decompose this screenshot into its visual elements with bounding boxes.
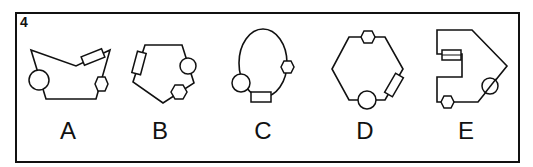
a-hexagon-icon bbox=[95, 77, 108, 91]
c-hexagon-icon bbox=[281, 61, 294, 73]
e-hexagon-icon bbox=[441, 96, 454, 108]
c-circle-icon bbox=[232, 74, 250, 92]
a-rectangle-icon bbox=[81, 49, 105, 66]
option-b-label[interactable]: B bbox=[145, 117, 175, 145]
c-rectangle-icon bbox=[251, 92, 271, 102]
a-circle-icon bbox=[29, 70, 49, 90]
option-d-label[interactable]: D bbox=[350, 117, 380, 145]
option-a-shape[interactable] bbox=[29, 49, 110, 99]
d-rectangle-icon bbox=[385, 73, 404, 97]
option-c-label[interactable]: C bbox=[248, 117, 278, 145]
option-d-shape[interactable] bbox=[332, 31, 403, 109]
option-b-shape[interactable] bbox=[132, 45, 196, 103]
b-circle-icon bbox=[180, 58, 196, 74]
option-a-label[interactable]: A bbox=[53, 117, 83, 145]
b-rectangle-icon bbox=[132, 51, 146, 75]
d-circle-icon bbox=[358, 91, 376, 109]
b-hexagon-icon bbox=[171, 85, 187, 99]
option-e-shape[interactable] bbox=[437, 30, 507, 108]
option-c-shape[interactable] bbox=[232, 29, 294, 102]
option-e-label[interactable]: E bbox=[451, 117, 481, 145]
d-hexagon-icon bbox=[361, 31, 375, 43]
puzzle-figure: 4 bbox=[0, 0, 533, 167]
